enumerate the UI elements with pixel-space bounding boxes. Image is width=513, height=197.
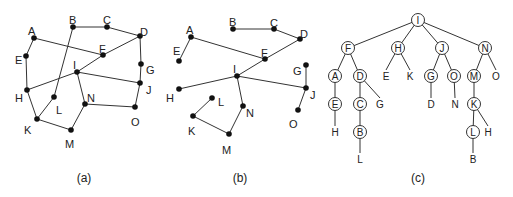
node-N — [240, 103, 246, 109]
node-E — [176, 58, 182, 64]
tree-node-label: E — [332, 99, 339, 110]
node-K — [190, 113, 196, 119]
node-label: A — [28, 25, 36, 37]
node-O — [132, 104, 138, 110]
node-L — [209, 95, 215, 101]
caption-c: (c) — [411, 171, 425, 185]
tree-leaf-label: E — [383, 71, 390, 82]
tree-node-label: N — [481, 43, 488, 54]
node-G — [303, 62, 309, 68]
tree-node-label: O — [450, 71, 458, 82]
node-K — [34, 116, 40, 122]
edge-N-M — [71, 104, 85, 130]
tree-node-label: K — [471, 99, 478, 110]
node-label: O — [131, 116, 140, 128]
node-M — [226, 131, 232, 137]
tree-node-label: M — [470, 71, 478, 82]
edge-F-I — [77, 55, 103, 72]
node-label: M — [65, 138, 74, 150]
figure: ABCDEFGHIJKLMNO(a)ABCDEFGHIJKLMNO(b)IFHJ… — [0, 0, 513, 197]
edge-K-L — [193, 98, 212, 116]
edge-C-D — [107, 27, 140, 36]
node-label: I — [233, 63, 236, 75]
edge-F-I — [237, 59, 265, 76]
edge-I-H — [27, 72, 77, 90]
node-label: L — [218, 96, 224, 108]
tree-node-label: B — [357, 127, 364, 138]
node-label: H — [166, 92, 174, 104]
edge-K-L — [37, 97, 54, 119]
edge-G-J — [140, 64, 141, 83]
node-H — [24, 87, 30, 93]
edge-M-K — [37, 119, 71, 130]
node-label: A — [186, 24, 194, 36]
edge-I-N — [77, 72, 85, 104]
node-label: F — [99, 43, 106, 55]
node-label: G — [146, 64, 155, 76]
node-label: K — [188, 125, 196, 137]
panel-b: ABCDEFGHIJKLMNO(b) — [166, 16, 316, 185]
tree-node-label: G — [427, 71, 435, 82]
tree-leaf-label: L — [357, 154, 363, 165]
node-E — [23, 53, 29, 59]
edge-M-K — [193, 116, 229, 134]
node-label: C — [103, 14, 111, 26]
tree-node-label: F — [345, 43, 351, 54]
edge-N-O — [85, 104, 135, 107]
node-O — [295, 107, 301, 113]
tree-leaf-label: K — [407, 71, 414, 82]
edge-A-E — [26, 38, 34, 56]
node-label: B — [69, 14, 76, 26]
node-label: J — [146, 84, 152, 96]
node-label: C — [270, 17, 278, 29]
edge-E-H — [26, 56, 27, 90]
node-label: K — [24, 124, 32, 136]
tree-node-label: A — [332, 71, 339, 82]
edge-J-O — [298, 88, 306, 110]
edge-I-H — [179, 76, 237, 89]
panel-a: ABCDEFGHIJKLMNO(a) — [15, 14, 155, 185]
tree-node-label: D — [356, 71, 363, 82]
tree-leaf-label: G — [376, 99, 384, 110]
edge-A-E — [179, 37, 191, 61]
tree-leaf-label: O — [492, 71, 500, 82]
node-label: I — [73, 59, 76, 71]
caption-b: (b) — [233, 171, 248, 185]
edge-C-D — [274, 29, 300, 39]
tree-leaf-label: N — [451, 99, 458, 110]
caption-a: (a) — [77, 171, 92, 185]
panel-c: IFHJNADGOMECKBLEKOGDNHHLB(c) — [329, 14, 501, 186]
node-M — [68, 127, 74, 133]
tree-leaf-label: H — [331, 127, 338, 138]
tree-node-label: C — [356, 99, 363, 110]
tree-edge — [418, 20, 485, 48]
edge-O-J — [135, 83, 140, 107]
edge-I-J — [237, 76, 306, 88]
node-label: E — [173, 45, 180, 57]
edge-K-H — [27, 90, 37, 119]
node-label: E — [15, 54, 22, 66]
tree-node-label: I — [417, 15, 420, 26]
node-label: O — [289, 118, 298, 130]
node-H — [176, 86, 182, 92]
edge-D-F — [103, 36, 140, 55]
edge-D-F — [265, 39, 300, 59]
edge-D-G — [140, 36, 141, 64]
node-label: N — [87, 92, 95, 104]
node-label: N — [246, 107, 254, 119]
node-G — [138, 61, 144, 67]
node-label: B — [229, 16, 236, 28]
edge-N-M — [229, 106, 243, 134]
tree-leaf-label: D — [427, 99, 434, 110]
edge-B-L — [54, 27, 73, 97]
node-J — [303, 85, 309, 91]
node-label: G — [293, 65, 302, 77]
graph-figure: ABCDEFGHIJKLMNO(a)ABCDEFGHIJKLMNO(b)IFHJ… — [0, 0, 513, 197]
node-label: D — [300, 28, 308, 40]
edge-A-F — [191, 37, 265, 59]
node-label: D — [140, 26, 148, 38]
node-L — [51, 94, 57, 100]
node-label: F — [261, 47, 268, 59]
tree-node-label: L — [470, 127, 476, 138]
tree-leaf-label: B — [470, 154, 477, 165]
